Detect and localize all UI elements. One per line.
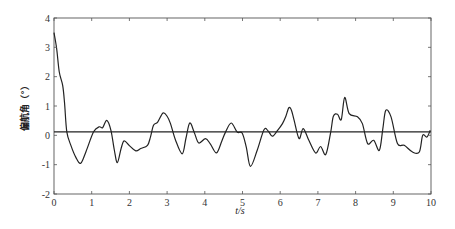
y-tick-label: 4 xyxy=(45,13,50,24)
y-tick-label: -2 xyxy=(42,189,50,200)
x-axis-label: t/s xyxy=(235,205,245,216)
x-tick-label: 10 xyxy=(426,197,436,208)
y-tick-label: -1 xyxy=(42,159,50,170)
series-layer xyxy=(54,33,431,167)
x-tick-label: 2 xyxy=(127,197,132,208)
y-axis-label: 偏航角（°） xyxy=(19,81,30,131)
ticks-layer: 012345678910-2-101234 xyxy=(42,13,436,209)
x-tick-label: 9 xyxy=(391,197,396,208)
plot-area xyxy=(54,18,431,194)
x-tick-label: 6 xyxy=(278,197,283,208)
x-tick-label: 0 xyxy=(52,197,57,208)
yaw-angle-series xyxy=(54,33,430,167)
x-tick-label: 8 xyxy=(353,197,358,208)
x-tick-label: 4 xyxy=(202,197,207,208)
x-tick-label: 3 xyxy=(165,197,170,208)
plot-frame xyxy=(54,18,431,194)
y-tick-label: 0 xyxy=(45,130,50,141)
y-tick-label: 1 xyxy=(45,101,50,112)
x-tick-label: 1 xyxy=(89,197,94,208)
x-tick-label: 7 xyxy=(315,197,320,208)
y-tick-label: 3 xyxy=(45,42,50,53)
y-tick-label: 2 xyxy=(45,71,50,82)
yaw-angle-chart: 012345678910-2-101234 t/s 偏航角（°） xyxy=(0,0,455,229)
